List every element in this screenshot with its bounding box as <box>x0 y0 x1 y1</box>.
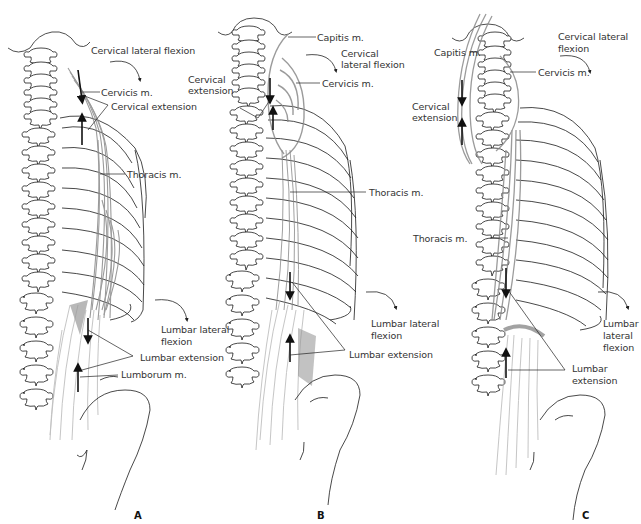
label-b-cervical-lateral-flexion-line1: Cervical <box>341 48 379 59</box>
label-b-cervical-lateral-flexion-line2: lateral flexion <box>341 59 405 70</box>
label-c-thoracis: Thoracis m. <box>413 233 467 244</box>
label-b-cervical-extension-line1: Cervical <box>188 74 226 85</box>
label-c-capitis: Capitis m. <box>434 47 481 58</box>
label-c-cervical-extension-line2: extension <box>412 112 457 123</box>
label-b-capitis: Capitis m. <box>317 32 364 43</box>
label-c-lumbar-lateral-flexion-line3: flexion <box>603 342 634 353</box>
label-b-cervicis: Cervicis m. <box>322 78 374 89</box>
label-a-lumbar-lateral-flexion-line1: Lumbar lateral <box>161 324 229 335</box>
label-a-lumbar-extension: Lumbar extension <box>140 352 224 363</box>
anatomy-illustration <box>0 0 641 524</box>
label-b-lumbar-lateral-flexion-line2: flexion <box>371 330 402 341</box>
label-c-lumbar-lateral-flexion-line2: lateral <box>603 330 633 341</box>
label-b-lumbar-extension: Lumbar extension <box>349 349 433 360</box>
label-a-cervical-extension: Cervical extension <box>111 101 197 112</box>
label-a-cervical-lateral-flexion: Cervical lateral flexion <box>91 45 195 56</box>
panel-letter-c: C <box>582 510 589 521</box>
label-c-lumbar-lateral-flexion-line1: Lumbar <box>603 318 639 329</box>
panel-letter-a: A <box>134 510 142 521</box>
spine-c <box>472 32 511 396</box>
label-a-cervicis: Cervicis m. <box>101 87 153 98</box>
label-c-cervical-lateral-flexion-line2: flexion <box>558 43 589 54</box>
panel-b-illustration <box>218 18 396 505</box>
label-c-cervical-lateral-flexion-line1: Cervical lateral <box>558 31 628 42</box>
label-c-cervicis: Cervicis m. <box>538 67 590 78</box>
panel-letter-b: B <box>317 510 325 521</box>
spine-a <box>20 48 57 410</box>
label-b-cervical-extension-line2: extension <box>188 85 233 96</box>
label-b-thoracis: Thoracis m. <box>369 187 423 198</box>
label-c-lumbar-extension-line1: Lumbar <box>572 363 608 374</box>
panel-c-illustration <box>452 14 628 520</box>
label-a-lumborum: Lumborum m. <box>121 369 187 380</box>
spine-b <box>226 26 265 388</box>
label-c-lumbar-extension-line2: extension <box>572 375 617 386</box>
label-c-cervical-extension-line1: Cervical <box>412 101 450 112</box>
label-a-lumbar-lateral-flexion-line2: flexion <box>161 336 192 347</box>
label-b-lumbar-lateral-flexion-line1: Lumbar lateral <box>371 318 439 329</box>
label-a-thoracis: Thoracis m. <box>127 169 181 180</box>
